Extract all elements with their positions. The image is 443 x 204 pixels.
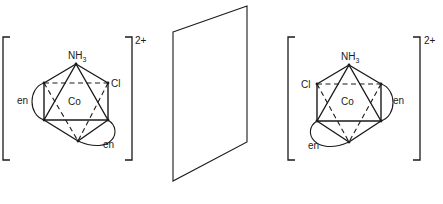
right-complex: NH3 Cl Co en en 2+ — [288, 35, 436, 160]
right-en-label-1: en — [393, 95, 404, 106]
left-en-label-2: en — [103, 139, 114, 150]
right-complex-close-bracket — [413, 37, 420, 160]
left-edge-br-bottom — [78, 120, 108, 141]
mirror-plane — [173, 6, 247, 181]
right-nh3-label: NH3 — [341, 51, 359, 64]
left-en-label-1: en — [17, 95, 28, 106]
right-complex-open-bracket — [288, 37, 295, 160]
left-co-label: Co — [68, 96, 81, 107]
left-en-arc-left — [32, 83, 44, 120]
enantiomer-diagram: NH3 Cl Co en en 2+ — [0, 0, 443, 204]
right-edge-bl-bottom — [317, 121, 349, 142]
left-complex-close-bracket — [125, 37, 132, 160]
right-cl-label: Cl — [301, 79, 310, 90]
left-nh3-label: NH3 — [68, 50, 86, 63]
left-complex-open-bracket — [3, 37, 10, 160]
left-cl-label: Cl — [111, 78, 120, 89]
right-en-label-2: en — [308, 140, 319, 151]
left-edge-bl-bottom — [44, 120, 78, 141]
left-charge-label: 2+ — [135, 35, 147, 46]
diagram-canvas: NH3 Cl Co en en 2+ — [0, 0, 443, 204]
right-edge-br-bottom — [349, 121, 381, 142]
right-charge-label: 2+ — [424, 35, 436, 46]
right-en-arc-right — [381, 84, 393, 121]
right-co-label: Co — [341, 96, 354, 107]
left-complex: NH3 Cl Co en en 2+ — [3, 35, 147, 160]
